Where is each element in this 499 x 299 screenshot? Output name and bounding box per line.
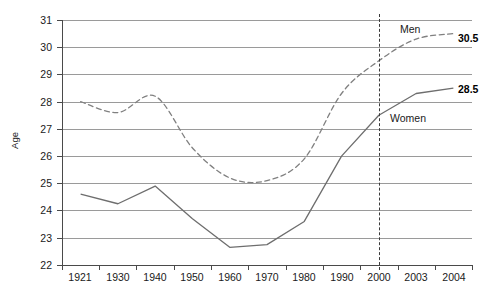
end-value-men: 30.5 bbox=[458, 33, 478, 44]
series-label-women: Women bbox=[390, 113, 426, 124]
end-value-women: 28.5 bbox=[458, 84, 478, 95]
series-line-men bbox=[81, 34, 454, 183]
series-label-men: Men bbox=[400, 24, 420, 35]
reference-line-2000 bbox=[379, 14, 380, 270]
series-layer bbox=[0, 0, 499, 299]
line-chart: 31 30 29 28 27 26 25 24 23 22 Age 1921 1… bbox=[0, 0, 499, 299]
